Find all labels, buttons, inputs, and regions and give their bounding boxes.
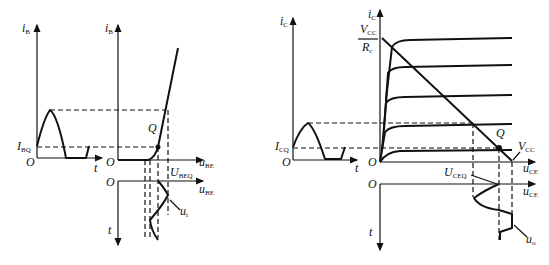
svg-text:uBE: uBE — [199, 182, 214, 197]
svg-text:uBE: uBE — [199, 155, 214, 170]
input-characteristic-plot: iB O uBE Q UBEQ — [105, 21, 214, 180]
svg-text:Rc: Rc — [361, 40, 372, 55]
svg-text:O: O — [368, 177, 377, 191]
svg-text:iB: iB — [22, 21, 30, 36]
svg-text:UBEQ: UBEQ — [170, 165, 193, 180]
svg-text:uCE: uCE — [523, 161, 538, 176]
svg-text:t: t — [369, 225, 373, 239]
svg-text:O: O — [106, 175, 115, 189]
svg-text:iB: iB — [105, 21, 113, 36]
svg-text:O: O — [282, 155, 291, 169]
svg-text:O: O — [26, 155, 35, 169]
output-curve-5 — [386, 38, 512, 100]
svg-text:uo: uo — [526, 232, 536, 247]
ui-waveform-plot: O uBE t ui — [106, 175, 214, 245]
svg-text:ui: ui — [180, 204, 188, 219]
svg-text:VCC: VCC — [360, 22, 377, 37]
svg-text:iC: iC — [280, 14, 288, 29]
output-characteristic-plot: iC O uCE VCC Rc Q VCC — [358, 7, 538, 176]
svg-text:t: t — [108, 223, 112, 237]
ib-wave — [37, 110, 89, 158]
svg-text:IBQ: IBQ — [16, 139, 31, 154]
svg-text:O: O — [368, 155, 377, 169]
svg-text:uCE: uCE — [523, 184, 538, 199]
uo-wave — [474, 184, 512, 240]
ib-waveform-plot: iB O t IBQ — [16, 21, 102, 175]
svg-text:Q: Q — [496, 126, 505, 140]
input-curve — [118, 48, 178, 160]
load-line — [382, 38, 512, 161]
svg-text:t: t — [94, 161, 98, 175]
output-curve-1 — [380, 150, 512, 162]
bjt-amplifier-graphical-analysis: iB O t IBQ iB O uBE Q UBEQ O uBE t ui iC — [0, 0, 549, 265]
svg-text:t: t — [355, 161, 359, 175]
svg-text:O: O — [106, 155, 115, 169]
ui-wave — [150, 181, 168, 240]
svg-text:VCC: VCC — [518, 139, 535, 154]
uo-waveform-plot: O uCE t UCEQ uo — [368, 165, 538, 250]
ic-waveform-plot: iC O t ICQ — [274, 14, 359, 175]
svg-text:UCEQ: UCEQ — [444, 165, 467, 180]
svg-text:iC: iC — [368, 7, 376, 22]
svg-text:ICQ: ICQ — [274, 139, 289, 154]
ic-wave — [293, 123, 345, 159]
svg-text:Q: Q — [148, 121, 157, 135]
